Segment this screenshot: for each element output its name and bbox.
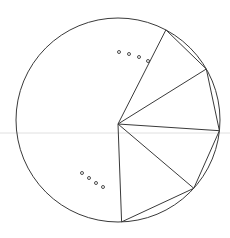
lower-ellipsis bbox=[81, 172, 105, 189]
ellipsis-dot bbox=[81, 172, 84, 175]
diagram-canvas bbox=[0, 0, 230, 238]
ellipsis-dots-group bbox=[81, 51, 150, 189]
ellipsis-dot bbox=[138, 56, 141, 59]
radius-2 bbox=[118, 69, 206, 124]
upper-ellipsis bbox=[118, 51, 150, 63]
ellipsis-dot bbox=[147, 60, 150, 63]
chord-4 bbox=[122, 188, 194, 222]
radii-group bbox=[118, 30, 219, 222]
radius-1 bbox=[118, 30, 166, 124]
radius-4 bbox=[118, 124, 194, 188]
inscribed-polygon-diagram bbox=[0, 0, 230, 238]
ellipsis-dot bbox=[118, 51, 121, 54]
chord-1 bbox=[166, 30, 206, 69]
circle bbox=[16, 18, 220, 222]
chord-2 bbox=[206, 69, 219, 131]
radius-3 bbox=[118, 124, 219, 131]
chords-group bbox=[122, 30, 220, 222]
chord-3 bbox=[194, 131, 220, 189]
radius-5 bbox=[118, 124, 122, 222]
ellipsis-dot bbox=[102, 186, 105, 189]
ellipsis-dot bbox=[88, 177, 91, 180]
ellipsis-dot bbox=[128, 53, 131, 56]
ellipsis-dot bbox=[95, 182, 98, 185]
